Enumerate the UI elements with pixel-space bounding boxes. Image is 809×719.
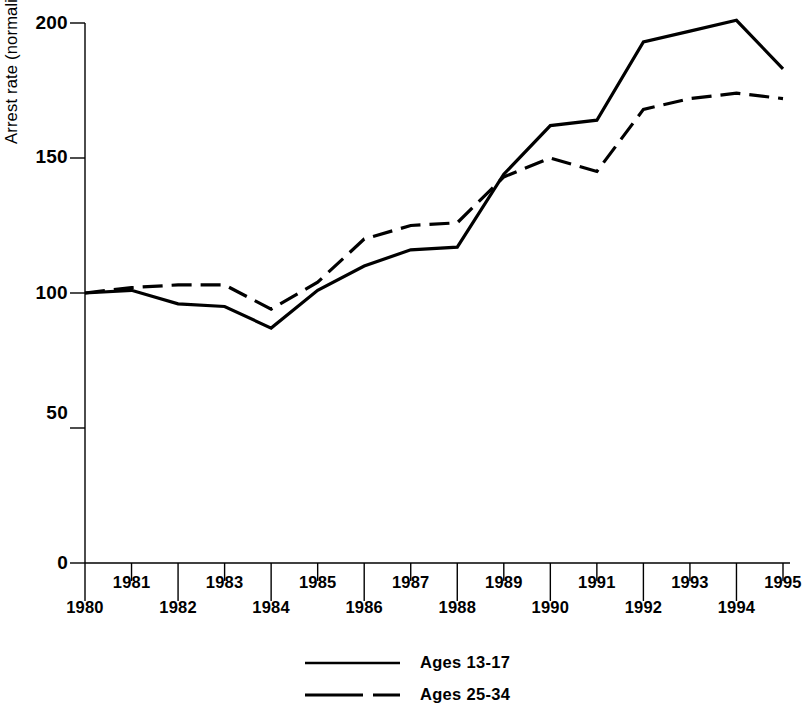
x-tick-label-1987: 1987 bbox=[376, 573, 446, 592]
y-tick-label-200: 200 bbox=[6, 12, 68, 34]
legend-label-ages-13-17: Ages 13-17 bbox=[420, 653, 510, 672]
x-tick-label-1981: 1981 bbox=[97, 573, 167, 592]
x-tick-label-1988: 1988 bbox=[422, 598, 492, 617]
series-line-ages-13-17 bbox=[85, 20, 783, 328]
legend-label-ages-25-34: Ages 25-34 bbox=[420, 685, 510, 704]
y-tick-label-50: 50 bbox=[6, 402, 68, 424]
y-tick-label-100: 100 bbox=[6, 282, 68, 304]
x-tick-label-1990: 1990 bbox=[515, 598, 585, 617]
x-tick-label-1993: 1993 bbox=[655, 573, 725, 592]
x-tick-label-1995: 1995 bbox=[748, 573, 809, 592]
x-tick-label-1980: 1980 bbox=[50, 598, 120, 617]
x-tick-label-1982: 1982 bbox=[143, 598, 213, 617]
chart-figure: Arrest rate (normalized to 100 percent) … bbox=[0, 0, 809, 719]
x-tick-label-1992: 1992 bbox=[608, 598, 678, 617]
x-tick-label-1991: 1991 bbox=[562, 573, 632, 592]
x-tick-label-1983: 1983 bbox=[190, 573, 260, 592]
x-tick-label-1985: 1985 bbox=[283, 573, 353, 592]
y-tick-label-150: 150 bbox=[6, 146, 68, 168]
x-tick-label-1989: 1989 bbox=[469, 573, 539, 592]
plot-area bbox=[0, 0, 809, 719]
x-tick-label-1986: 1986 bbox=[329, 598, 399, 617]
series-line-ages-25-34 bbox=[85, 93, 783, 309]
y-tick-label-0: 0 bbox=[6, 552, 68, 574]
y-axis-ticks bbox=[70, 23, 85, 563]
x-tick-label-1984: 1984 bbox=[236, 598, 306, 617]
x-tick-label-1994: 1994 bbox=[701, 598, 771, 617]
